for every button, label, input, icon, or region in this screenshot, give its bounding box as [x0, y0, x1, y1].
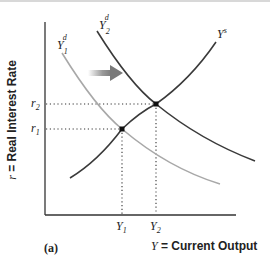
panel-label: (a): [44, 241, 58, 256]
tick-r1: r1: [31, 121, 40, 137]
guide-lines: [46, 104, 156, 214]
supply-curve: [70, 42, 216, 178]
shift-arrow-icon: [88, 65, 123, 81]
tick-Y1: Y1: [116, 219, 127, 235]
demand-curve-initial-label: Y1d: [57, 37, 72, 54]
diagram-canvas: [0, 0, 270, 270]
x-axis-title: Y = Current Output: [151, 239, 257, 254]
equilibrium-point-new: [154, 102, 159, 107]
equilibrium-point-initial: [120, 127, 125, 132]
demand-curve-shifted-label: Y2d: [99, 17, 114, 34]
tick-Y2: Y2: [150, 219, 161, 235]
supply-curve-label: Ys: [217, 26, 227, 42]
tick-r2: r2: [31, 96, 40, 112]
demand-curve-initial: [62, 53, 220, 184]
y-axis-title: r = Real Interest Rate: [5, 60, 20, 180]
demand-curve-shifted: [97, 31, 255, 161]
